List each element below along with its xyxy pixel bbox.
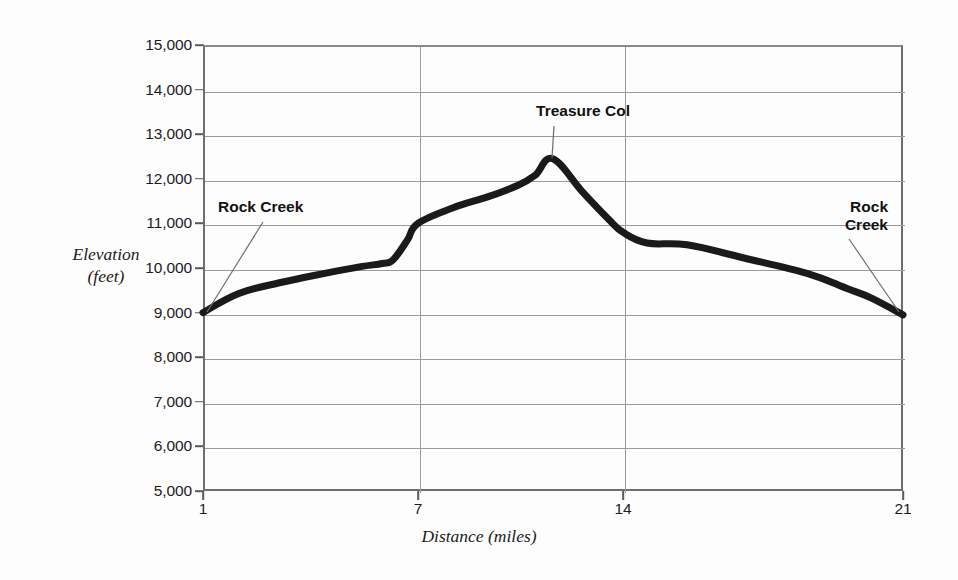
gridline-horizontal [205,136,905,137]
x-tick-label: 14 [593,500,653,518]
x-tick-mark [622,491,624,500]
gridline-horizontal [205,359,905,360]
x-tick-label: 21 [873,500,933,518]
y-tick-label: 7,000 [106,393,192,411]
gridline-horizontal [205,404,905,405]
y-tick-label: 13,000 [106,125,192,143]
gridline-horizontal [205,181,905,182]
x-tick-mark [902,491,904,500]
y-tick-label: 11,000 [106,214,192,232]
y-tick-label: 9,000 [106,304,192,322]
x-axis-title: Distance (miles) [0,526,958,547]
y-tick-label: 8,000 [106,348,192,366]
gridline-horizontal [205,315,905,316]
y-tick-label: 12,000 [106,170,192,188]
y-tick-label: 6,000 [106,437,192,455]
y-axis-title-line2: (feet) [46,265,166,287]
y-axis-title-line1: Elevation [46,243,166,265]
annotation-treasure-col: Treasure Col [498,102,668,120]
annotation-rock-creek-left: Rock Creek [218,198,303,216]
gridline-horizontal [205,448,905,449]
y-tick-label: 14,000 [106,81,192,99]
gridline-horizontal [205,270,905,271]
annotation-rock-creek-right: Rock Creek [796,198,888,233]
x-tick-label: 1 [173,500,233,518]
x-tick-mark [417,491,419,500]
gridline-vertical [420,47,421,493]
chart-page: 15,00014,00013,00012,00011,00010,0009,00… [0,0,958,580]
gridline-horizontal [205,92,905,93]
x-tick-label: 7 [388,500,448,518]
y-axis-title: Elevation (feet) [46,243,166,287]
x-tick-mark [202,491,204,500]
y-tick-label: 5,000 [106,482,192,500]
y-tick-label: 15,000 [106,36,192,54]
